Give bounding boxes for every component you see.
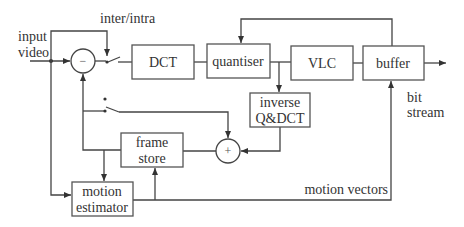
lower-switch-contact-top [103,97,106,100]
lower-switch-contact [103,109,106,112]
inter-intra-switch[interactable] [108,57,120,62]
buffer-label: buffer [376,56,410,71]
quantiser-label: quantiser [212,54,264,69]
minus-symbol: − [80,54,87,68]
vlc-label: VLC [308,56,336,71]
dct-label: DCT [149,55,177,70]
adder-node: + [216,139,240,163]
input-video-label-line1: input [18,29,47,44]
bit-stream-label-line2: stream [407,105,444,120]
input-video-label-line2: video [18,45,49,60]
buffer-feedback-wire [241,19,392,46]
frame-store-block: frame store [121,133,183,167]
input-to-me-wire [51,61,71,195]
inter-intra-label: inter/intra [100,11,156,26]
dct-block: DCT [132,45,194,79]
vlc-block: VLC [291,46,353,80]
prediction-switch[interactable] [106,107,119,112]
motion-vectors-label: motion vectors [304,182,388,197]
encoder-diagram: − + DCT quantiser VLC buffer inverse Q&D… [0,0,464,227]
motion-estimator-label-line1: motion [82,184,122,199]
frame-store-label-line1: frame [136,135,169,150]
framestore-to-subtractor-wire [83,74,121,150]
bit-stream-label-line1: bit [407,90,422,105]
inverse-to-adder-wire [241,127,280,151]
inverse-label-line2: Q&DCT [256,111,305,126]
quantiser-block: quantiser [207,44,270,78]
buffer-block: buffer [363,46,424,80]
frame-store-label-line2: store [138,151,165,166]
inverse-qdct-block: inverse Q&DCT [250,93,310,127]
inverse-label-line1: inverse [260,95,300,110]
motion-estimator-label-line2: estimator [76,200,128,215]
motion-estimator-block: motion estimator [72,182,133,216]
subtractor-node: − [71,49,95,73]
plus-symbol: + [225,144,232,158]
